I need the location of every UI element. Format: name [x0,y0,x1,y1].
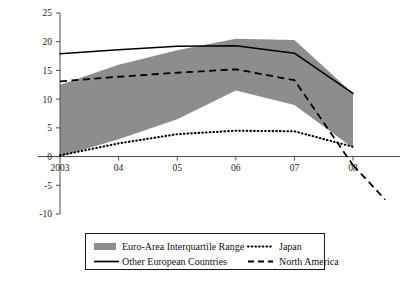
y-tick-label: 20 [43,37,53,47]
y-tick-label: 15 [43,66,53,76]
legend-label-other-european-countries: Other European Countries [122,256,227,267]
y-tick-label: -10 [39,209,52,219]
x-tick-label: 2003 [51,163,70,173]
y-tick-label: 25 [43,8,53,18]
euro-area-interquartile-band [60,39,353,157]
legend-label-japan: Japan [279,241,302,252]
y-tick-label: -5 [44,181,52,191]
chart-figure: 2520151050-5-10 20030405060708 Euro-Area… [0,0,420,292]
y-tick-label: 0 [47,152,52,162]
series-line-north-america-extension [353,165,385,199]
y-tick-label: 5 [47,123,52,133]
y-axis-tick-labels: 2520151050-5-10 [39,8,52,219]
x-axis-tick-labels: 20030405060708 [51,163,359,173]
y-tick-label: 10 [43,95,53,105]
x-tick-label: 06 [231,163,241,173]
y-axis-ticks [56,13,60,214]
legend-label-north-america: North America [279,256,339,267]
x-axis-ticks [119,157,353,161]
x-tick-label: 04 [114,163,124,173]
legend-marker-euro-area-interquartile-range [94,243,116,250]
legend-label-euro-area-interquartile-range: Euro-Area Interquartile Range [122,241,245,252]
x-tick-label: 07 [290,163,300,173]
chart-legend: Euro-Area Interquartile Range Japan Othe… [86,234,340,270]
x-tick-label: 05 [172,163,182,173]
line-chart-svg: 2520151050-5-10 20030405060708 Euro-Area… [0,0,420,292]
